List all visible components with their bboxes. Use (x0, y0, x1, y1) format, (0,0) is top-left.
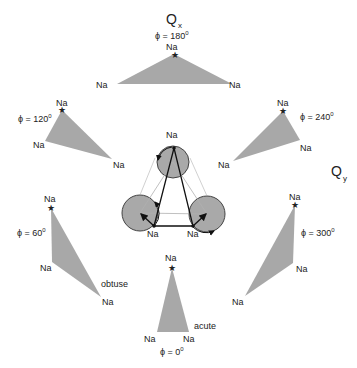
triangle-shape (45, 110, 112, 159)
atom-label: Na (218, 160, 230, 170)
atom-dot (191, 224, 195, 228)
phi-label: ϕ = 1200 (18, 113, 52, 124)
atom-label: Na (187, 229, 199, 239)
triangle-shape (157, 268, 189, 332)
atom-dot (152, 224, 156, 228)
star-icon: ★ (58, 105, 66, 115)
atom-label: Na (232, 297, 244, 307)
atom-label: Na (296, 264, 308, 274)
qy-axis-label: Q y (331, 163, 347, 183)
triangle-shape (51, 208, 101, 297)
atom-label: Na (165, 253, 177, 263)
atom-label: Na (33, 140, 45, 150)
triangle-phi-240: ϕ = 2400 Na ★ Na Na (218, 98, 334, 170)
star-icon: ★ (171, 50, 179, 60)
atom-label: Na (40, 263, 52, 273)
qy-sub: y (343, 174, 347, 183)
atom-label: Na (300, 143, 312, 153)
triangle-shape (233, 111, 300, 161)
phi-label: ϕ = 2400 (300, 111, 334, 122)
qx-main: Q (166, 11, 177, 27)
star-icon: ★ (291, 200, 299, 210)
phi-label: ϕ = 1800 (155, 30, 189, 41)
atom-dot (172, 146, 176, 150)
triangle-phi-180: ϕ = 1800 Na ★ Na Na (96, 30, 241, 90)
guide-line (190, 158, 207, 196)
acute-annotation: acute (194, 321, 216, 331)
triangle-shape (245, 205, 295, 296)
triangle-phi-120: ϕ = 1200 Na ★ Na Na (18, 98, 125, 170)
atom-label: Na (183, 334, 195, 344)
atom-label: Na (229, 80, 241, 90)
central-rotation-schematic: Na Na Na (122, 130, 225, 239)
atom-label: Na (147, 229, 159, 239)
atom-label: Na (96, 80, 108, 90)
qx-sub: x (178, 21, 182, 30)
phi-label: ϕ = 00 (160, 346, 184, 357)
star-icon: ★ (47, 203, 55, 213)
qy-main: Q (331, 163, 342, 179)
phi-label: ϕ = 600 (17, 227, 46, 238)
qx-axis-label: Q x (166, 11, 182, 30)
triangle-phi-60: ϕ = 600 Na ★ Na Na obtuse (17, 194, 128, 307)
star-icon: ★ (168, 263, 176, 273)
atom-label: Na (113, 160, 125, 170)
triangle-phi-300: ϕ = 3000 Na ★ Na Na (232, 192, 335, 307)
guide-line (140, 158, 155, 195)
triangle-phi-0: Na ★ Na Na acute ϕ = 00 (144, 253, 216, 357)
phi-label: ϕ = 3000 (301, 227, 335, 238)
atom-label: Na (144, 334, 156, 344)
star-icon: ★ (279, 106, 287, 116)
obtuse-annotation: obtuse (101, 279, 128, 289)
triangle-rotation-diagram: Q x Q y ϕ = 1800 Na ★ Na Na ϕ = 1200 Na … (0, 0, 357, 368)
atom-label: Na (166, 130, 178, 140)
atom-label: Na (102, 297, 114, 307)
